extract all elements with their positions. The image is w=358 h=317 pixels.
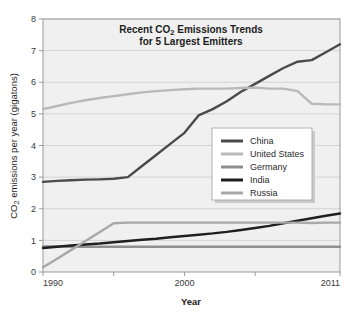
chart-title-line2: for 5 Largest Emitters: [139, 36, 243, 47]
chart-container: 012345678 199020002011 Recent CO2 Emissi…: [0, 0, 358, 317]
y-tick-label: 8: [31, 14, 36, 24]
y-tick-label: 2: [31, 204, 36, 214]
legend-label-russia: Russia: [250, 188, 278, 198]
legend-label-germany: Germany: [250, 162, 288, 172]
y-tick-label: 1: [31, 236, 36, 246]
legend-label-india: India: [250, 175, 270, 185]
x-tick-label: 2000: [174, 278, 194, 288]
y-axis-title-pre: CO: [8, 205, 19, 219]
y-tick-label: 6: [31, 77, 36, 87]
y-tick-label: 5: [31, 109, 36, 119]
x-tick-label: 2011: [321, 278, 340, 288]
y-tick-label: 7: [31, 46, 36, 56]
y-axis-ticks: 012345678: [31, 14, 43, 277]
legend-label-china: China: [250, 136, 274, 146]
chart-title-pre: Recent CO: [119, 24, 170, 35]
y-tick-label: 3: [31, 172, 36, 182]
emissions-line-chart: 012345678 199020002011 Recent CO2 Emissi…: [0, 0, 358, 317]
chart-legend: ChinaUnited StatesGermanyIndiaRussia: [212, 128, 315, 203]
chart-title-post: Emissions Trends: [174, 24, 263, 35]
y-tick-label: 0: [31, 267, 36, 277]
y-axis-title-post: emissions per year (gigatons): [8, 73, 19, 200]
x-axis-title: Year: [181, 296, 201, 307]
y-tick-label: 4: [31, 141, 36, 151]
y-axis-title: CO2 emissions per year (gigatons): [8, 73, 21, 219]
legend-label-united-states: United States: [250, 149, 305, 159]
x-tick-label: 1990: [43, 278, 63, 288]
x-axis-ticks: 199020002011: [43, 272, 340, 288]
